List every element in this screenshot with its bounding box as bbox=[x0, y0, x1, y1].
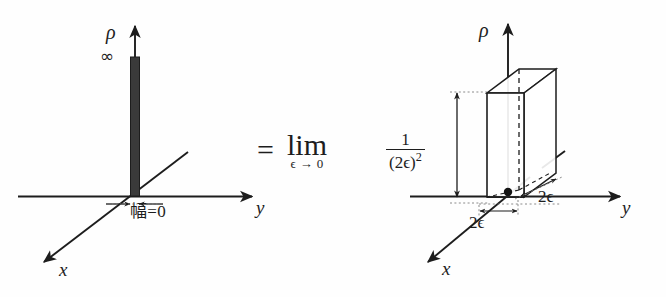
width-kanji-label: 幅 bbox=[130, 201, 147, 221]
width-zero-value: 0 bbox=[157, 202, 166, 221]
width-equals-sign: = bbox=[147, 202, 157, 221]
left-infinite-spike bbox=[131, 57, 140, 196]
right-rho-axis-label: ρ bbox=[479, 20, 489, 40]
box-width-label: 2ϵ bbox=[469, 214, 484, 231]
fraction-group: 1 (2ϵ)2 bbox=[386, 131, 425, 171]
left-x-axis-label: x bbox=[59, 260, 67, 279]
width-equals-zero-label: 幅=0 bbox=[130, 203, 166, 220]
left-y-axis-label: y bbox=[256, 198, 264, 217]
left-x-axis bbox=[44, 152, 188, 262]
right-y-axis-label: y bbox=[622, 198, 630, 217]
right-x-axis-label: x bbox=[442, 259, 450, 278]
equals-sign: = bbox=[257, 135, 274, 165]
figure-vector-graphics bbox=[0, 0, 666, 297]
figure-canvas: ρ ∞ y x 幅=0 = lim ϵ → 0 1 (2ϵ)2 ρ y x 2ϵ… bbox=[0, 0, 666, 297]
right-panel-group bbox=[410, 24, 620, 262]
limit-subscript: ϵ → 0 bbox=[287, 157, 327, 170]
limit-operator-group: lim ϵ → 0 bbox=[287, 130, 327, 170]
fraction-denominator-exponent: 2 bbox=[416, 150, 422, 164]
box-depth-label: 2ϵ bbox=[538, 188, 553, 205]
fraction-denominator: (2ϵ)2 bbox=[386, 150, 425, 171]
left-rho-axis-label: ρ bbox=[106, 22, 116, 42]
infinity-label: ∞ bbox=[100, 48, 114, 65]
fraction-numerator: 1 bbox=[386, 131, 425, 149]
left-panel-group bbox=[18, 26, 252, 262]
fraction-denominator-base: (2ϵ) bbox=[389, 153, 416, 172]
origin-point-marker bbox=[504, 188, 512, 196]
